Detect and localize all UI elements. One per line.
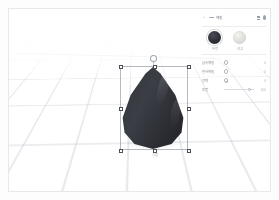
axis-gizmo-icon: ⌐ <box>187 71 190 77</box>
dark-material-swatch-circle[interactable] <box>208 31 221 44</box>
app-root: ⌐ 원뿔 ‹ 재질 무광 석고 <box>0 0 279 200</box>
resize-handle-top-center[interactable] <box>153 65 157 69</box>
property-label-reflective: 반사재질 <box>202 69 221 74</box>
panel-topbar: ‹ 재질 <box>202 13 266 22</box>
properties-panel: ‹ 재질 무광 석고 금속재질 <box>198 9 270 101</box>
resize-handle-middle-left[interactable] <box>119 107 123 111</box>
chevron-left-icon[interactable]: ‹ <box>202 16 206 20</box>
grid-menu-icon[interactable] <box>209 17 214 18</box>
material-swatch-row: 무광 석고 <box>202 31 266 51</box>
resize-handle-top-right[interactable] <box>187 65 191 69</box>
material-swatch-dark[interactable]: 무광 <box>208 31 221 51</box>
gloss-toggle-icon[interactable] <box>224 78 228 82</box>
light-material-label: 석고 <box>237 46 243 51</box>
dark-material-label: 무광 <box>212 46 218 51</box>
panel-topbar-right-group <box>257 15 266 20</box>
property-control-opacity[interactable] <box>221 88 257 92</box>
property-row-gloss[interactable]: 광택 0 <box>202 77 266 85</box>
resize-handle-middle-right[interactable] <box>187 107 191 111</box>
property-list: 금속재질 0 반사재질 0 광택 0 투 <box>202 59 266 94</box>
metallic-toggle-icon[interactable] <box>224 60 228 64</box>
property-row-opacity[interactable]: 투명 100 <box>202 86 266 94</box>
panel-title: 재질 <box>216 15 222 20</box>
material-swatch-light[interactable]: 석고 <box>233 31 246 51</box>
property-row-reflective[interactable]: 반사재질 0 <box>202 68 266 76</box>
property-value-reflective: 0 <box>257 70 266 74</box>
rotate-handle[interactable] <box>150 55 157 62</box>
property-value-gloss: 0 <box>257 79 266 83</box>
property-label-metallic: 금속재질 <box>202 60 221 65</box>
resize-handle-bottom-right[interactable] <box>187 149 191 153</box>
panel-divider-2 <box>202 54 266 55</box>
layers-icon[interactable] <box>257 16 260 20</box>
property-value-opacity: 100 <box>257 88 266 92</box>
property-control-reflective[interactable] <box>221 69 257 73</box>
resize-handle-top-left[interactable] <box>119 65 123 69</box>
panel-topbar-left-group: ‹ 재질 <box>202 15 222 20</box>
light-material-swatch-circle[interactable] <box>233 31 246 44</box>
property-label-gloss: 광택 <box>202 78 221 83</box>
property-control-metallic[interactable] <box>221 60 257 64</box>
opacity-slider-thumb[interactable] <box>248 88 251 91</box>
reflective-toggle-icon[interactable] <box>224 69 228 73</box>
pin-icon[interactable] <box>263 15 266 20</box>
resize-handle-bottom-left[interactable] <box>119 149 123 153</box>
object-caption: 원뿔 <box>137 152 173 157</box>
opacity-slider[interactable] <box>224 88 254 92</box>
panel-divider <box>202 26 266 27</box>
property-control-gloss[interactable] <box>221 78 257 82</box>
property-value-metallic: 0 <box>257 61 266 65</box>
property-row-metallic[interactable]: 금속재질 0 <box>202 59 266 67</box>
property-label-opacity: 투명 <box>202 87 221 92</box>
selection-bounding-box[interactable] <box>120 66 188 150</box>
